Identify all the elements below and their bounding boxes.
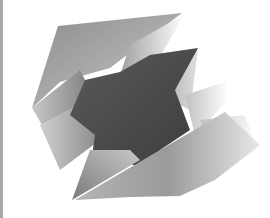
abstract-geometric-artwork xyxy=(0,0,270,218)
